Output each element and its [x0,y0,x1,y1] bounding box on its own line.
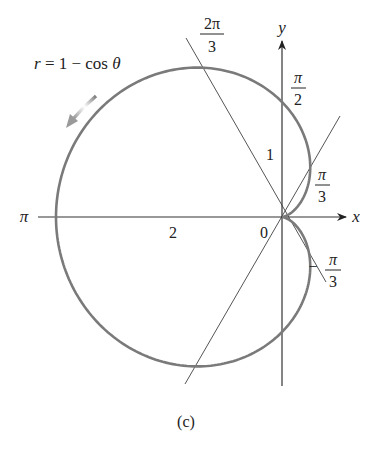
label-pi-over-2: π 2 [291,69,306,108]
svg-text:π: π [318,166,327,183]
tick-label-2: 2 [169,224,177,241]
line-pi-over-3 [185,116,340,384]
tick-label-1: 1 [266,146,274,163]
svg-text:−: − [308,258,317,275]
label-pi: π [20,207,29,226]
cardioid-figure: r = 1 − cos θ 2π 3 y π 2 1 π 3 π 2 0 [0,0,373,456]
label-two-pi-over-3: 2π 3 [200,15,224,55]
x-axis-label: x [351,207,360,226]
line-two-pi-over-3 [186,38,326,282]
figure-caption: (c) [177,413,195,431]
label-neg-pi-over-3: − π 3 [308,251,341,290]
equation-label: r = 1 − cos θ [34,54,121,73]
svg-text:3: 3 [208,38,216,55]
direction-arrow-icon [66,96,96,128]
y-axis-label: y [276,18,286,37]
label-pi-over-3: π 3 [315,166,330,205]
svg-text:2: 2 [294,91,302,108]
svg-text:2π: 2π [204,15,220,32]
svg-text:3: 3 [329,273,337,290]
svg-text:3: 3 [318,188,326,205]
svg-text:π: π [294,69,303,86]
origin-label: 0 [260,224,268,241]
svg-text:π: π [329,251,338,268]
